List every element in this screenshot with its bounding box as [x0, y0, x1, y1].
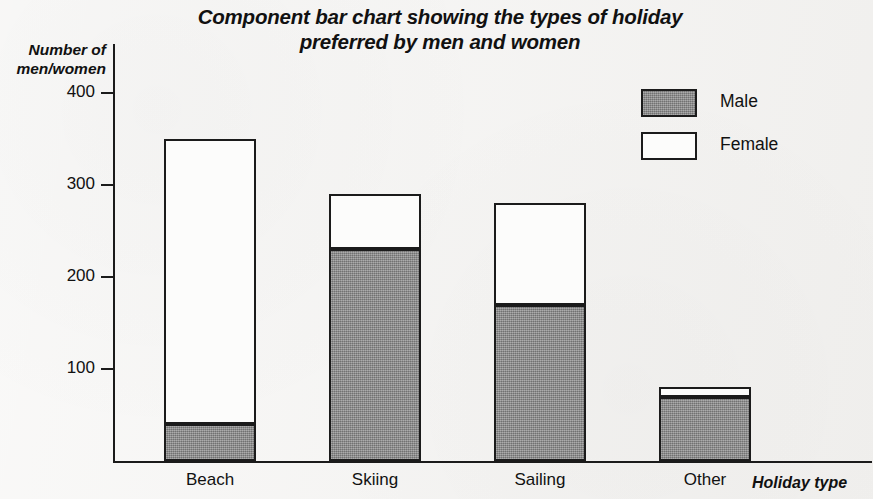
x-axis-category-label: Skiing	[305, 470, 445, 490]
bar-segment-female[interactable]	[164, 139, 256, 424]
bar-segment-male[interactable]	[494, 305, 586, 461]
y-axis-tick	[101, 368, 114, 370]
legend-label-male: Male	[720, 91, 758, 112]
y-axis-line	[113, 44, 115, 463]
y-axis-tick	[101, 276, 114, 278]
y-axis-tick-label: 300	[33, 174, 95, 194]
bar-segment-male[interactable]	[659, 397, 751, 461]
x-axis-category-label: Beach	[140, 470, 280, 490]
x-axis-title: Holiday type	[752, 474, 847, 492]
x-axis-category-label: Sailing	[470, 470, 610, 490]
bar-group[interactable]	[659, 0, 751, 499]
legend-swatch-female	[641, 132, 697, 160]
bar-group[interactable]	[164, 0, 256, 499]
y-axis-tick-label: 200	[33, 266, 95, 286]
bar-group[interactable]	[494, 0, 586, 499]
legend-label-female: Female	[720, 134, 778, 155]
legend-swatch-male	[641, 89, 697, 117]
bar-segment-female[interactable]	[494, 203, 586, 304]
bar-segment-male[interactable]	[164, 424, 256, 461]
bar-segment-female[interactable]	[659, 387, 751, 396]
bar-group[interactable]	[329, 0, 421, 499]
bar-segment-male[interactable]	[329, 249, 421, 461]
y-axis-tick-label: 400	[33, 82, 95, 102]
y-axis-tick	[101, 92, 114, 94]
y-axis-tick	[101, 184, 114, 186]
y-axis-tick-label: 100	[33, 358, 95, 378]
bar-segment-female[interactable]	[329, 194, 421, 249]
chart-figure: Component bar chart showing the types of…	[0, 0, 873, 499]
